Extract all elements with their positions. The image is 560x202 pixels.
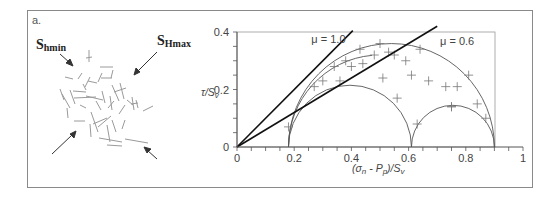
y-tick-label: 0	[223, 141, 229, 153]
fracture-line	[85, 77, 90, 87]
stress-arrows	[52, 52, 157, 159]
arrow-head-icon	[70, 131, 76, 138]
fracture-line	[122, 120, 125, 129]
data-point-cross-icon	[393, 94, 402, 103]
x-axis-label: (σn - Pp)/Sv	[352, 162, 406, 176]
fracture-diagram: Shmin SHmax	[36, 33, 191, 159]
data-point-cross-icon	[401, 56, 410, 65]
x-tick-label: 0	[234, 152, 240, 164]
data-point-cross-icon	[441, 82, 450, 91]
x-tick-label: 1	[520, 152, 526, 164]
data-point-cross-icon	[310, 82, 319, 91]
x-tick-label: 0.6	[401, 152, 416, 164]
fracture-line	[112, 85, 119, 101]
fracture-line	[73, 91, 86, 92]
fracture-line	[119, 105, 125, 114]
mohr-circle-outer	[288, 44, 494, 147]
data-point-cross-icon	[370, 51, 379, 60]
data-point-cross-icon	[407, 71, 416, 80]
data-point-cross-icon	[341, 56, 350, 65]
x-tick-label: 0.2	[287, 152, 302, 164]
plot-area-frame	[237, 32, 495, 147]
y-tick-label: 0.4	[214, 26, 229, 38]
fracture-line	[62, 94, 70, 108]
data-point-cross-icon	[453, 82, 462, 91]
shmax-arrow-bottom	[52, 135, 72, 154]
data-point-cross-icon	[447, 102, 456, 111]
data-point-cross-icon	[416, 45, 425, 54]
fracture-line	[99, 138, 122, 142]
mohr-circle-inner-right	[411, 105, 494, 147]
data-point-cross-icon	[376, 39, 385, 48]
mohr-circle-inner-left	[288, 85, 411, 147]
friction-line	[237, 31, 353, 147]
data-point-cross-icon	[473, 99, 482, 108]
fracture-line	[86, 57, 92, 58]
arrow-head-icon	[134, 68, 140, 75]
fracture-line	[112, 120, 116, 132]
figure: a. Shmin SHmax 00.20.40.60.8100.2	[0, 0, 560, 202]
shmax-arrow-top	[137, 52, 157, 72]
data-point-cross-icon	[355, 45, 364, 54]
fracture-line	[125, 139, 148, 143]
mu-1-label: μ = 1.0	[311, 33, 345, 45]
fracture-line	[67, 108, 68, 118]
panel-label: a.	[32, 14, 41, 26]
fracture-line	[111, 70, 113, 78]
fracture-line	[88, 81, 97, 83]
fracture-line	[70, 90, 75, 104]
fracture-line	[143, 106, 153, 111]
fracture-line	[120, 83, 124, 99]
fracture-line	[102, 91, 105, 103]
fracture-line	[107, 145, 122, 146]
data-point-cross-icon	[378, 74, 387, 83]
data-point-cross-icon	[358, 59, 367, 68]
shmin-label: Shmin	[36, 37, 66, 53]
axes: 00.20.40.60.8100.20.4	[214, 26, 526, 164]
x-tick-label: 0.8	[458, 152, 473, 164]
shmax-label: SHmax	[157, 33, 191, 49]
mohr-chart: 00.20.40.60.8100.20.4 τ/Sv (σn - Pp)/Sv …	[201, 26, 526, 176]
mohr-circle-partial-arc	[288, 55, 372, 147]
fracture-line	[136, 100, 138, 108]
fracture-line	[114, 88, 126, 92]
data-point-cross-icon	[464, 71, 473, 80]
mu-06-label: μ = 0.6	[440, 35, 474, 47]
data-point-cross-icon	[347, 62, 356, 71]
fracture-line	[80, 105, 86, 108]
fracture-line	[96, 101, 101, 110]
data-point-cross-icon	[424, 76, 433, 85]
fracture-line	[90, 124, 91, 137]
fracture-line	[78, 73, 82, 79]
fracture-line	[65, 77, 73, 79]
